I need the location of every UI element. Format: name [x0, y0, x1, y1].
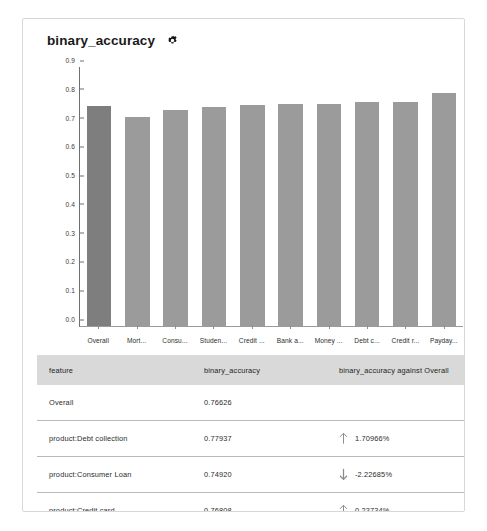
x-axis-tick: Payday... [425, 329, 463, 345]
x-axis-tick-label: Studen... [200, 337, 227, 344]
chart-bar[interactable] [278, 104, 303, 326]
cell-feature: product:Consumer Loan [37, 457, 192, 493]
bar-chart: 0.00.10.20.30.40.50.60.70.80.9 OverallMo… [45, 61, 465, 351]
metric-card: binary_accuracy 0.00.10.20.30.40.50.60.7… [22, 18, 465, 512]
x-axis-tick: Consu... [156, 329, 194, 345]
x-axis-tick: Studen... [194, 329, 232, 345]
chart-bar[interactable] [125, 117, 150, 326]
chart-bar[interactable] [240, 105, 265, 326]
x-axis-tick: Overall [79, 329, 117, 345]
y-axis-tick-label: 0.5 [66, 172, 80, 179]
cell-feature: product:Debt collection [37, 421, 192, 457]
cell-feature: Overall [37, 385, 192, 421]
y-axis-tick-label: 0.0 [66, 316, 80, 323]
column-header-against-overall[interactable]: binary_accuracy against Overall [327, 355, 465, 385]
gear-icon[interactable] [166, 34, 179, 47]
figure-caption [0, 519, 487, 531]
delta-value: 1.70966% [355, 434, 390, 443]
chart-bar[interactable] [87, 106, 112, 326]
bar-slot [271, 67, 309, 326]
y-axis-tick-label: 0.8 [66, 85, 80, 92]
bar-slot [386, 67, 424, 326]
bar-slot [157, 67, 195, 326]
x-axis-tick-label: Money ... [315, 337, 343, 344]
chart-bar[interactable] [355, 102, 380, 326]
bar-slot [195, 67, 233, 326]
delta-value: -2.22685% [355, 470, 392, 479]
cell-binary-accuracy: 0.74920 [192, 457, 327, 493]
chart-bar[interactable] [393, 102, 418, 326]
column-header-binary-accuracy[interactable]: binary_accuracy [192, 355, 327, 385]
x-axis-tick-label: Overall [87, 337, 109, 344]
cell-against-overall: -2.22685% [327, 457, 465, 493]
cell-binary-accuracy: 0.76808 [192, 493, 327, 513]
chart-plot-area: 0.00.10.20.30.40.50.60.70.80.9 [79, 67, 463, 327]
cell-binary-accuracy: 0.76626 [192, 385, 327, 421]
table-header-row: feature binary_accuracy binary_accuracy … [37, 355, 465, 385]
cell-against-overall [327, 385, 465, 421]
cell-feature: product:Credit card [37, 493, 192, 513]
bar-slot [80, 67, 118, 326]
bar-slot [118, 67, 156, 326]
cell-against-overall: 0.23734% [327, 493, 465, 513]
bar-slot [425, 67, 463, 326]
x-axis-tick-label: Credit r... [392, 337, 420, 344]
x-axis-tick-label: Consu... [162, 337, 187, 344]
bar-slot [348, 67, 386, 326]
arrow-down-icon [339, 468, 348, 481]
table-row[interactable]: product:Credit card0.768080.23734% [37, 493, 465, 513]
x-axis-tick-label: Credit ... [239, 337, 265, 344]
chart-bar[interactable] [317, 104, 342, 326]
table-row[interactable]: product:Consumer Loan0.74920-2.22685% [37, 457, 465, 493]
y-axis-tick-label: 0.1 [66, 287, 80, 294]
page-title: binary_accuracy [47, 33, 155, 48]
x-axis-tick-label: Mort... [127, 337, 146, 344]
y-axis-tick-label: 0.3 [66, 229, 80, 236]
chart-bar[interactable] [432, 93, 457, 326]
table-row[interactable]: product:Debt collection0.779371.70966% [37, 421, 465, 457]
cell-against-overall: 1.70966% [327, 421, 465, 457]
table-row[interactable]: Overall0.76626 [37, 385, 465, 421]
arrow-up-icon [339, 432, 348, 445]
cell-binary-accuracy: 0.77937 [192, 421, 327, 457]
x-axis-tick: Money ... [309, 329, 347, 345]
x-axis-tick-label: Payday... [430, 337, 458, 344]
x-axis-tick: Debt c... [348, 329, 386, 345]
metrics-table-container[interactable]: feature binary_accuracy binary_accuracy … [37, 355, 465, 512]
chart-bar[interactable] [202, 107, 227, 326]
metrics-table: feature binary_accuracy binary_accuracy … [37, 355, 465, 512]
arrow-up-icon [339, 504, 348, 512]
x-axis: OverallMort...Consu...Studen...Credit ..… [79, 329, 463, 345]
y-axis-tick-label: 0.2 [66, 258, 80, 265]
delta-value: 0.23734% [355, 506, 390, 512]
y-axis-tick-label: 0.7 [66, 114, 80, 121]
card-header: binary_accuracy [47, 33, 179, 48]
chart-bar[interactable] [163, 110, 188, 326]
bar-slot [310, 67, 348, 326]
x-axis-tick: Credit r... [386, 329, 424, 345]
chart-bars [80, 67, 463, 326]
column-header-feature[interactable]: feature [37, 355, 192, 385]
y-axis-tick-label: 0.9 [66, 57, 80, 64]
x-axis-tick-label: Bank a... [277, 337, 304, 344]
y-axis-tick-label: 0.4 [66, 200, 80, 207]
x-axis-tick-label: Debt c... [354, 337, 379, 344]
y-axis-tick-label: 0.6 [66, 143, 80, 150]
x-axis-tick: Credit ... [233, 329, 271, 345]
x-axis-tick: Mort... [117, 329, 155, 345]
bar-slot [233, 67, 271, 326]
x-axis-tick: Bank a... [271, 329, 309, 345]
